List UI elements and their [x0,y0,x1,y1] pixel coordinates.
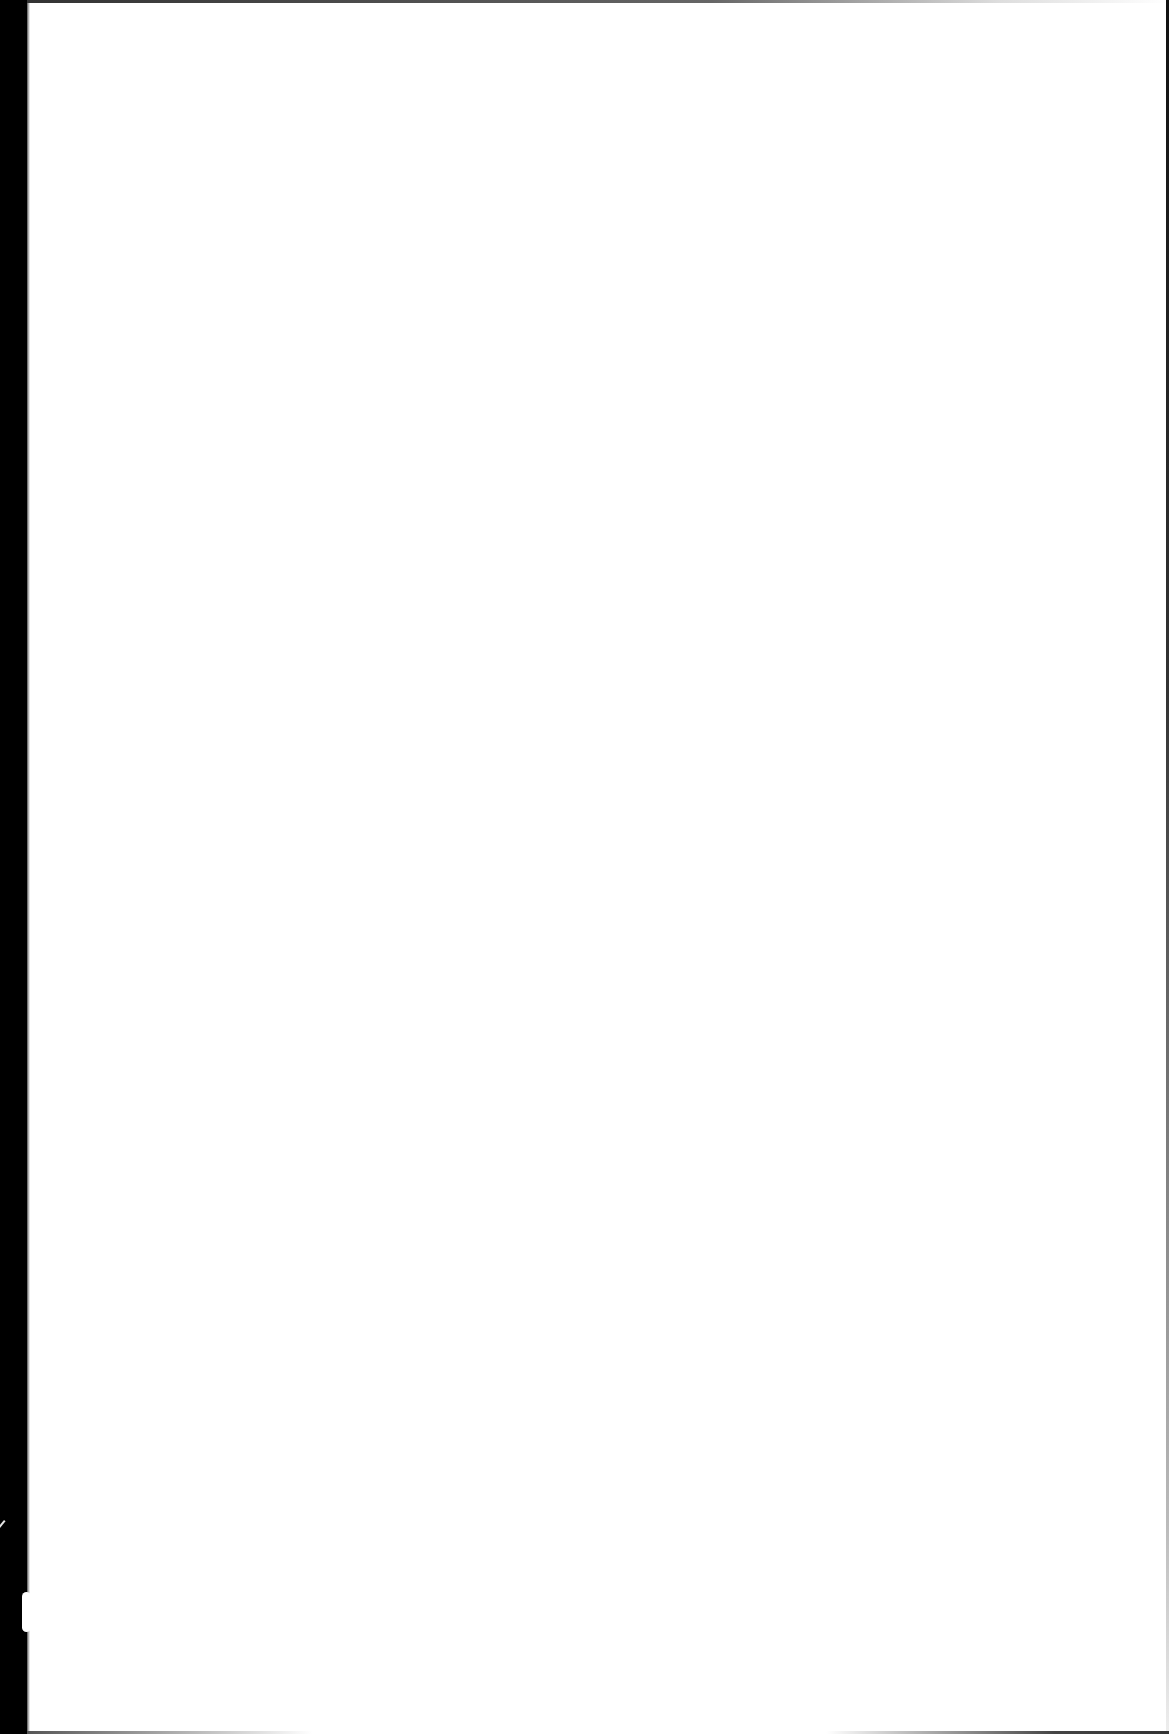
scan-edge-artifact [0,1480,30,1540]
blank-page-content [40,20,1149,1714]
scan-left-edge [0,0,27,1734]
scan-spot [22,1592,31,1632]
scan-top-edge [27,0,1169,3]
